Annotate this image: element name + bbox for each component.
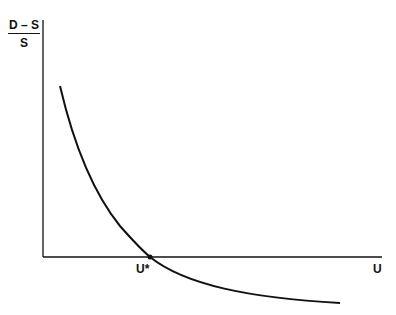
y-axis-label: D – S S xyxy=(8,18,40,50)
chart-canvas xyxy=(0,0,396,315)
y-label-denominator: S xyxy=(8,36,40,50)
fraction-bar xyxy=(8,33,40,34)
u-star-label: U* xyxy=(136,262,149,276)
y-label-numerator: D – S xyxy=(8,18,40,32)
excess-demand-curve xyxy=(60,86,340,303)
equilibrium-point xyxy=(148,255,153,260)
x-axis-label: U xyxy=(373,262,382,276)
